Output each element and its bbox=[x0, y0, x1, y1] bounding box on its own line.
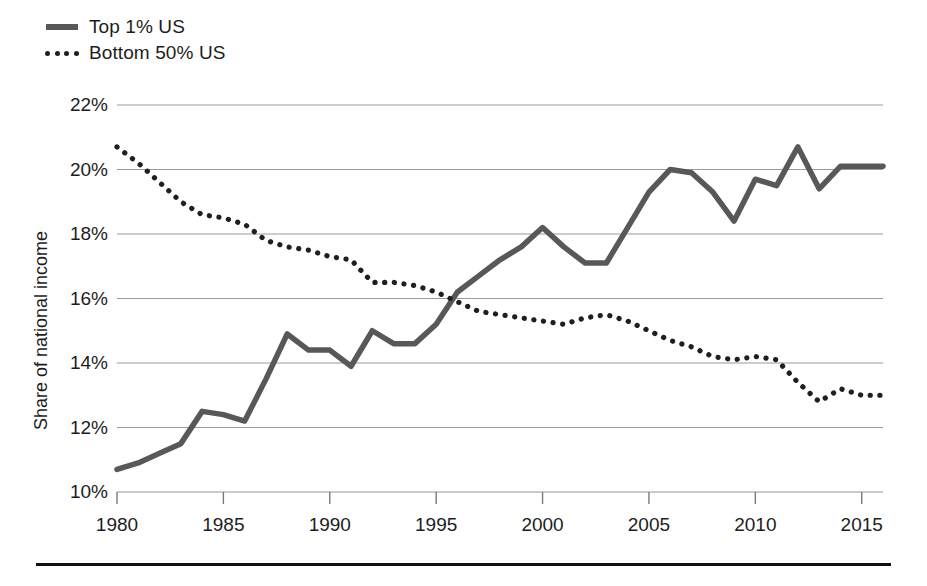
series-line-top-1-percent bbox=[117, 147, 883, 470]
x-axis-tick-label: 2000 bbox=[521, 514, 563, 536]
x-axis-tick-label: 1980 bbox=[96, 514, 138, 536]
gridlines bbox=[117, 105, 883, 492]
x-axis-tick-label: 1990 bbox=[309, 514, 351, 536]
income-share-chart-figure: Top 1% US Bottom 50% US Share of nationa… bbox=[0, 0, 927, 586]
x-axis-tick-label: 1985 bbox=[202, 514, 244, 536]
plot-area bbox=[0, 0, 927, 586]
x-axis-tick-label: 2005 bbox=[628, 514, 670, 536]
figure-bottom-rule bbox=[36, 563, 891, 566]
x-axis-tick-label: 1995 bbox=[415, 514, 457, 536]
data-series-layer bbox=[117, 147, 883, 470]
x-axis-tick-label: 2015 bbox=[841, 514, 883, 536]
x-axis-ticks bbox=[117, 492, 862, 504]
x-axis-tick-label: 2010 bbox=[734, 514, 776, 536]
